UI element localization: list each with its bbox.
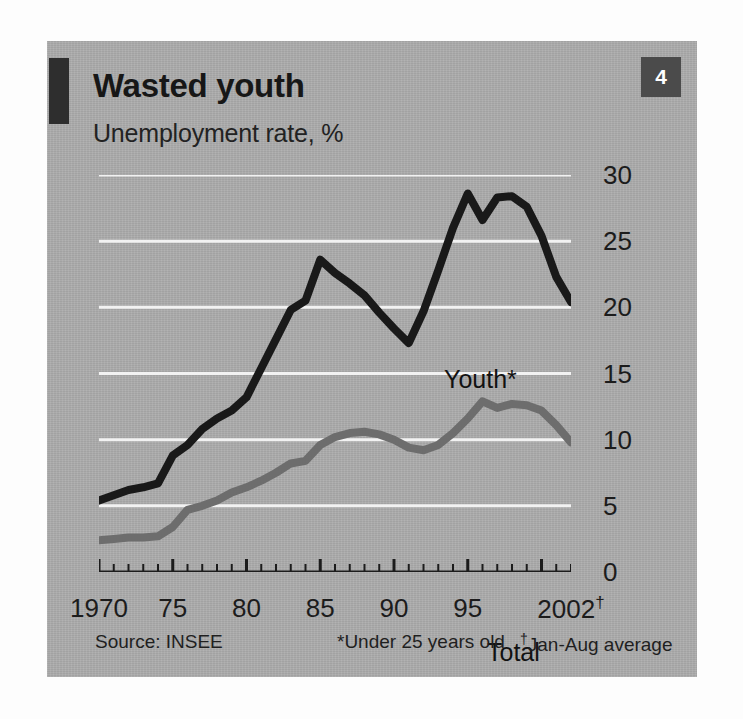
y-axis-labels: 051015202530 — [603, 175, 673, 575]
dagger-symbol: † — [520, 631, 528, 647]
series-line-total — [99, 401, 571, 540]
chart-panel: 4 Wasted youth Unemployment rate, % Yout… — [47, 41, 697, 677]
source-note: Source: INSEE — [95, 631, 223, 653]
chart-footnotes: Source: INSEE *Under 25 years old †Jan-A… — [95, 631, 675, 657]
x-tick-label: 85 — [306, 593, 335, 624]
page-root: 4 Wasted youth Unemployment rate, % Yout… — [0, 0, 743, 719]
chart-subtitle: Unemployment rate, % — [93, 119, 343, 148]
x-tick-label: 90 — [380, 593, 409, 624]
x-tick-label: 95 — [453, 593, 482, 624]
series-line-youth — [99, 194, 571, 501]
x-tick-label: 2002† — [537, 593, 604, 625]
y-tick-label: 15 — [603, 361, 632, 387]
dagger-symbol: † — [595, 593, 604, 612]
y-tick-label: 0 — [603, 559, 617, 585]
y-tick-label: 20 — [603, 294, 632, 320]
y-tick-label: 5 — [603, 493, 617, 519]
x-tick-label: 1970 — [70, 593, 128, 624]
chart-number-badge: 4 — [641, 57, 681, 97]
x-tick-marks-group — [99, 559, 571, 572]
y-tick-label: 30 — [603, 162, 632, 188]
series-label-youth: Youth* — [444, 365, 517, 394]
y-tick-label: 10 — [603, 427, 632, 453]
x-axis-labels: 197075808590952002† — [99, 593, 619, 633]
star-footnote: *Under 25 years old — [337, 631, 505, 653]
dagger-footnote: †Jan-Aug average — [520, 631, 673, 656]
plot-area: Youth* Total — [99, 175, 571, 572]
dagger-footnote-text: Jan-Aug average — [528, 634, 673, 655]
title-accent-block — [49, 58, 69, 124]
x-tick-label: 80 — [232, 593, 261, 624]
y-tick-label: 25 — [603, 228, 632, 254]
chart-title: Wasted youth — [93, 67, 305, 105]
x-tick-label: 75 — [158, 593, 187, 624]
